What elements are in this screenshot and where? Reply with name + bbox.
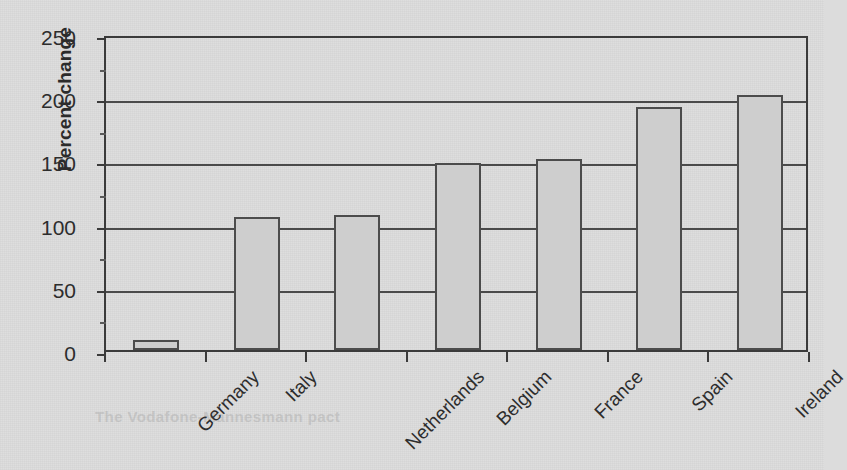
y-axis-tick-label: 200 — [6, 89, 76, 113]
y-axis-minor-tick — [100, 322, 106, 324]
y-axis-tick-mark — [97, 291, 106, 293]
y-axis-minor-tick — [100, 196, 106, 198]
bar — [334, 215, 380, 350]
y-axis-tick-label: 0 — [6, 342, 76, 366]
x-axis-category-label: France — [590, 366, 647, 423]
bar — [133, 340, 179, 350]
x-axis-category-label: Netherlands — [401, 366, 489, 454]
bar — [737, 95, 783, 350]
y-axis-tick-label: 50 — [6, 279, 76, 303]
y-axis-tick-mark — [97, 38, 106, 40]
x-axis-category-label: Belgium — [492, 366, 556, 430]
y-axis-tick-mark — [97, 164, 106, 166]
x-axis-category-label: Germany — [193, 366, 264, 437]
x-axis-category-label: Ireland — [791, 366, 847, 423]
bar — [435, 163, 481, 350]
y-axis-minor-tick — [100, 70, 106, 72]
x-axis-category-labels: GermanyItalyNetherlandsBelgiumFranceSpai… — [104, 352, 808, 462]
y-axis-tick-label: 100 — [6, 216, 76, 240]
bar — [636, 107, 682, 350]
bar — [234, 217, 280, 350]
y-axis-minor-tick — [100, 133, 106, 135]
x-axis-category-label: Italy — [281, 366, 321, 406]
y-axis-tick-mark — [97, 101, 106, 103]
plot-area: 050100150200250 — [104, 36, 808, 352]
x-axis-tick-mark — [808, 352, 810, 362]
gridline — [106, 101, 806, 103]
y-axis-tick-label: 250 — [6, 26, 76, 50]
y-axis-minor-tick — [100, 259, 106, 261]
x-axis-category-label: Spain — [687, 366, 737, 416]
bar — [536, 159, 582, 350]
y-axis-tick-mark — [97, 228, 106, 230]
y-axis-tick-label: 150 — [6, 152, 76, 176]
